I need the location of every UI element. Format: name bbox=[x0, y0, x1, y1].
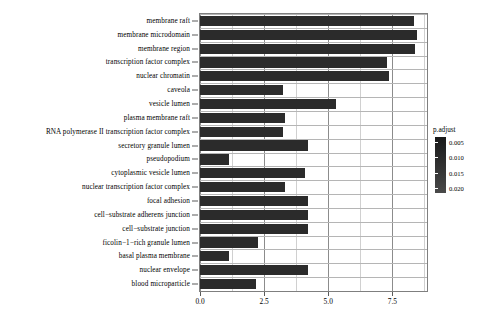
y-axis-tick bbox=[192, 131, 198, 132]
bar bbox=[200, 265, 308, 275]
bar bbox=[200, 251, 229, 261]
bar bbox=[200, 196, 308, 206]
bar bbox=[200, 224, 308, 234]
y-axis-label: cytoplasmic vesicle lumen bbox=[111, 169, 190, 177]
legend-tick-label: 0.005 bbox=[449, 138, 464, 145]
bar bbox=[200, 85, 283, 95]
y-axis-tick bbox=[192, 284, 198, 285]
legend-tick bbox=[435, 157, 438, 158]
bar bbox=[200, 279, 256, 289]
y-axis-tick bbox=[192, 228, 198, 229]
y-axis-labels: membrane raftmembrane microdomainmembran… bbox=[0, 13, 190, 292]
y-axis-tick bbox=[192, 214, 198, 215]
y-axis-label: nuclear envelope bbox=[140, 266, 191, 274]
y-axis-tick bbox=[192, 270, 198, 271]
y-axis-tick bbox=[192, 256, 198, 257]
legend-tick bbox=[435, 142, 438, 143]
x-axis: 0.02.55.07.5 bbox=[199, 292, 428, 314]
bar-series bbox=[200, 14, 427, 291]
legend: p.adjust 0.0050.0100.0150.020 bbox=[433, 126, 483, 196]
x-axis-tick bbox=[200, 292, 201, 296]
bar bbox=[200, 99, 336, 109]
legend-tick bbox=[435, 188, 438, 189]
chart-root: membrane raftmembrane microdomainmembran… bbox=[0, 0, 483, 325]
y-axis-label: cell−substrate adherens junction bbox=[94, 211, 190, 219]
bar bbox=[200, 182, 285, 192]
bar bbox=[200, 30, 417, 40]
y-axis-tick bbox=[192, 76, 198, 77]
y-axis-tick bbox=[192, 48, 198, 49]
y-axis-label: basal plasma membrane bbox=[119, 252, 190, 260]
y-axis-label: membrane region bbox=[138, 45, 190, 53]
bar bbox=[200, 127, 283, 137]
bar bbox=[200, 71, 389, 81]
plot-panel bbox=[199, 13, 428, 292]
bar bbox=[200, 16, 414, 26]
x-axis-tick bbox=[392, 292, 393, 296]
y-axis-label: pseudopodium bbox=[146, 155, 190, 163]
y-axis-tick bbox=[192, 62, 198, 63]
x-axis-label: 7.5 bbox=[388, 297, 397, 306]
y-axis-tick bbox=[192, 242, 198, 243]
legend-title: p.adjust bbox=[433, 126, 456, 134]
bar bbox=[200, 168, 305, 178]
y-axis-label: focal adhesion bbox=[147, 197, 190, 205]
y-axis-tick bbox=[192, 159, 198, 160]
y-axis-label: ficolin−1−rich granule lumen bbox=[102, 239, 190, 247]
legend-tick-label: 0.020 bbox=[449, 185, 464, 192]
y-axis-label: vesicle lumen bbox=[149, 100, 190, 108]
y-axis-tick bbox=[192, 145, 198, 146]
legend-colorbar bbox=[435, 137, 446, 193]
y-axis-label: caveola bbox=[167, 86, 190, 94]
y-axis-label: RNA polymerase II transcription factor c… bbox=[46, 128, 190, 136]
y-axis-label: nuclear transcription factor complex bbox=[82, 183, 190, 191]
bar bbox=[200, 237, 258, 247]
x-axis-tick bbox=[264, 292, 265, 296]
bar bbox=[200, 113, 285, 123]
x-axis-label: 5.0 bbox=[324, 297, 333, 306]
y-axis-tick bbox=[192, 117, 198, 118]
x-axis-label: 0.0 bbox=[195, 297, 204, 306]
y-axis-tick bbox=[192, 173, 198, 174]
bar bbox=[200, 44, 415, 54]
legend-tick bbox=[435, 173, 438, 174]
y-axis-label: cell−substrate junction bbox=[122, 225, 190, 233]
bar bbox=[200, 210, 308, 220]
x-axis-tick bbox=[328, 292, 329, 296]
y-axis-label: membrane microdomain bbox=[118, 31, 190, 39]
y-axis-tick bbox=[192, 200, 198, 201]
y-axis-label: nuclear chromatin bbox=[136, 72, 190, 80]
y-axis-tick bbox=[192, 104, 198, 105]
y-axis-label: blood microparticle bbox=[132, 280, 190, 288]
y-axis-tick bbox=[192, 34, 198, 35]
y-axis-label: transcription factor complex bbox=[106, 58, 190, 66]
y-axis-tick bbox=[192, 90, 198, 91]
bar bbox=[200, 57, 387, 67]
y-axis-label: secretory granule lumen bbox=[118, 142, 190, 150]
legend-tick-label: 0.015 bbox=[449, 169, 464, 176]
x-axis-label: 2.5 bbox=[259, 297, 268, 306]
y-axis-tick bbox=[192, 20, 198, 21]
y-axis-label: plasma membrane raft bbox=[124, 114, 190, 122]
legend-tick-label: 0.010 bbox=[449, 154, 464, 161]
bar bbox=[200, 140, 308, 150]
bar bbox=[200, 154, 229, 164]
y-axis-label: membrane raft bbox=[147, 17, 190, 25]
y-axis-tick bbox=[192, 187, 198, 188]
